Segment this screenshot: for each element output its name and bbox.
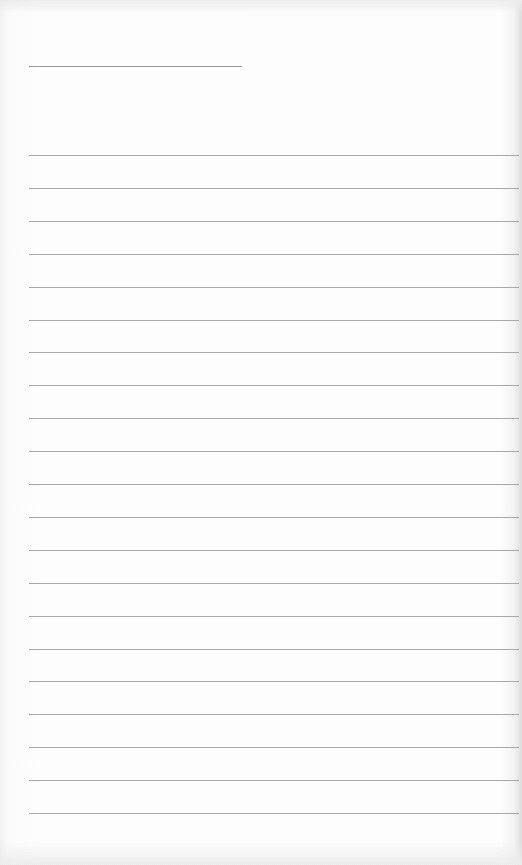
ruled-line[interactable] — [29, 221, 519, 222]
ruled-line[interactable] — [29, 451, 519, 452]
ruled-line[interactable] — [29, 254, 519, 255]
ruled-line[interactable] — [29, 320, 519, 321]
ruled-line[interactable] — [29, 352, 519, 353]
ruled-line[interactable] — [29, 649, 519, 650]
ruled-line[interactable] — [29, 550, 519, 551]
ruled-line[interactable] — [29, 583, 519, 584]
ruled-line[interactable] — [29, 780, 519, 781]
title-line[interactable] — [29, 66, 242, 67]
ruled-line[interactable] — [29, 747, 519, 748]
ruled-line[interactable] — [29, 714, 519, 715]
ruled-line[interactable] — [29, 385, 519, 386]
ruled-line[interactable] — [29, 155, 519, 156]
ruled-line[interactable] — [29, 813, 519, 814]
ruled-line[interactable] — [29, 681, 519, 682]
lined-paper-sheet — [0, 0, 522, 865]
ruled-line[interactable] — [29, 418, 519, 419]
ruled-line[interactable] — [29, 517, 519, 518]
ruled-line[interactable] — [29, 616, 519, 617]
ruled-line[interactable] — [29, 287, 519, 288]
ruled-line[interactable] — [29, 188, 519, 189]
ruled-line[interactable] — [29, 484, 519, 485]
